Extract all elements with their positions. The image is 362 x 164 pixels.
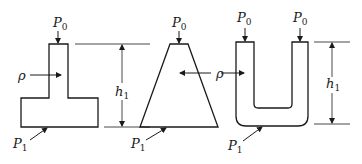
rho-label: ρ bbox=[17, 68, 26, 83]
p1-arrow bbox=[243, 127, 262, 141]
inverted-t-vessel: P0 ρ h1 P1 bbox=[12, 15, 150, 153]
p0-label: P0 bbox=[171, 15, 187, 32]
p0-left-label: P0 bbox=[236, 10, 252, 27]
inverted-t-outline bbox=[21, 44, 98, 127]
p0-right-label: P0 bbox=[292, 10, 308, 27]
p1-arrow bbox=[146, 128, 166, 140]
p1-arrow bbox=[30, 128, 47, 140]
hydrostatic-pressure-diagram: P0 ρ h1 P1 P0 ρ P1 P0 P0 h1 bbox=[0, 0, 362, 164]
p1-label: P1 bbox=[12, 136, 27, 153]
trapezoid-outline bbox=[140, 44, 218, 127]
p1-label: P1 bbox=[130, 136, 145, 153]
u-tube-outline bbox=[236, 42, 308, 126]
u-tube-vessel: P0 P0 h1 P1 bbox=[221, 10, 350, 155]
p1-label: P1 bbox=[227, 138, 242, 155]
h1-label: h1 bbox=[115, 84, 129, 101]
p0-label: P0 bbox=[52, 15, 68, 32]
h1-label: h1 bbox=[326, 76, 340, 93]
trapezoid-vessel: P0 ρ P1 bbox=[130, 15, 224, 153]
